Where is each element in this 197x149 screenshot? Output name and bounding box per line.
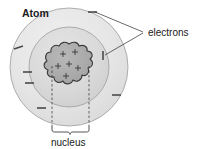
nucleus-label: nucleus — [51, 137, 85, 148]
figure-title: Atom — [22, 7, 49, 19]
electrons-label: electrons — [148, 27, 189, 38]
atom-diagram-canvas: Atom electrons nucleus — [0, 0, 197, 149]
atom-diagram-figure: Atom electrons nucleus — [0, 0, 197, 149]
